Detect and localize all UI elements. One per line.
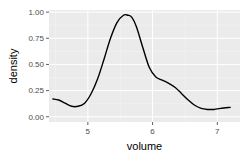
- x-axis-title: volume: [127, 140, 162, 152]
- y-tick-label: 0.50: [28, 60, 44, 69]
- y-tick-label: 1.00: [28, 8, 44, 17]
- y-axis: 0.000.250.500.751.00: [28, 8, 49, 122]
- y-tick-label: 0.75: [28, 34, 44, 43]
- x-tick-label: 5: [86, 127, 91, 136]
- x-tick-label: 7: [215, 127, 220, 136]
- x-tick-label: 6: [150, 127, 155, 136]
- y-tick-label: 0.25: [28, 86, 44, 95]
- x-axis: 567: [86, 122, 220, 136]
- plot-panel: [49, 10, 240, 122]
- y-tick-label: 0.00: [28, 113, 44, 122]
- density-chart: 0.000.250.500.751.00 567 volume density: [0, 0, 247, 162]
- y-axis-title: density: [7, 48, 19, 83]
